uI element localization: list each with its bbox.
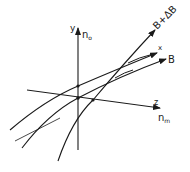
y-axis-sublabel: no (82, 29, 92, 41)
curve-B-label: B (168, 54, 175, 65)
thin-line (15, 118, 60, 141)
wave-vector-diagram: y no z nm x B B+ΔB (0, 0, 190, 172)
curve-x-label: x (158, 44, 162, 52)
curve-B (22, 59, 166, 148)
curve-x (10, 53, 157, 130)
intersection-dot (91, 98, 94, 101)
y-axis-label: y (70, 23, 76, 33)
z-axis-label: z (154, 98, 158, 107)
curve-B-plus-delta-B-label: B+ΔB (151, 3, 179, 31)
intersection-dot (76, 84, 79, 87)
intersection-dot (76, 96, 80, 100)
curve-B-plus-delta-B (58, 30, 155, 161)
z-axis-sublabel: nm (158, 112, 170, 124)
